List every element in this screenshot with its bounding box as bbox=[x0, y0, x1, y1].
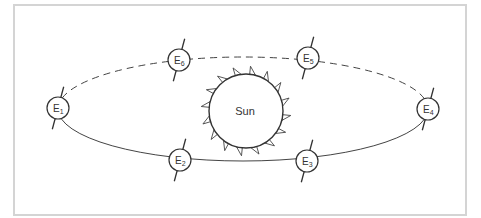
earth-e1: E1 bbox=[47, 87, 69, 130]
earth-e6: E6 bbox=[168, 39, 190, 82]
earth-e3: E3 bbox=[296, 140, 318, 183]
sun-label: Sun bbox=[235, 105, 255, 117]
earth-e5: E5 bbox=[297, 37, 319, 80]
earth-e2: E2 bbox=[169, 139, 191, 182]
orbit-diagram: Sun E1E2E3E4E5E6 bbox=[0, 0, 481, 218]
sun: Sun bbox=[201, 66, 291, 156]
